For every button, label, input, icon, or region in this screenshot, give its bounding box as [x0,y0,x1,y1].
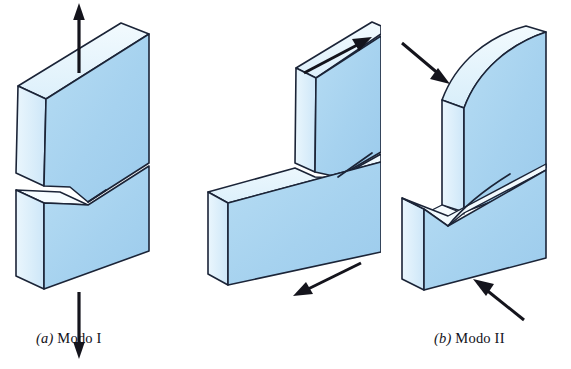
fracture-modes-figure: (a) Modo I [0,0,571,369]
tension-arrow-down [73,292,85,359]
lower-block-side-face [16,190,44,289]
mode-1-diagram [0,0,195,369]
caption-tag-a: (a) [36,330,54,346]
lower-block-side-face [208,192,228,285]
panel-mode-2: (b) Modo II [186,0,381,369]
upper-block-side-face [442,100,464,212]
lower-block-side-face [402,198,424,290]
tearing-arrow-top [402,43,450,84]
caption-mode-1: (a) Modo I [36,330,102,347]
mode-1-upper-block [16,23,149,202]
caption-label-a: Modo I [57,330,101,346]
mode-3-diagram [378,0,571,369]
upper-block-side-face [16,86,46,186]
mode-2-diagram [186,0,381,369]
upper-block-side-face [295,68,316,172]
panel-mode-1: (a) Modo I [0,0,195,369]
mode-2-upper-block [295,22,381,177]
tearing-arrow-bottom [473,279,524,320]
panel-mode-3: (c) Modo III [378,0,571,369]
